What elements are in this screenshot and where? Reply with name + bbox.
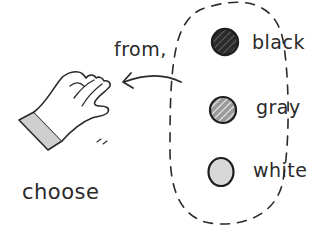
white-circle-icon xyxy=(209,158,234,186)
caption-choose: choose xyxy=(22,182,99,203)
arrow-left-icon xyxy=(123,73,181,88)
option-label-black: black xyxy=(252,33,305,52)
option-label-gray: gray xyxy=(256,98,301,117)
from-label: from, xyxy=(114,40,167,59)
black-circle-icon xyxy=(212,29,238,55)
gray-circle-icon xyxy=(210,97,236,123)
option-label-white: white xyxy=(253,161,308,180)
illustration-canvas: from, black gray white choose xyxy=(0,0,316,232)
hand-icon xyxy=(19,72,110,150)
